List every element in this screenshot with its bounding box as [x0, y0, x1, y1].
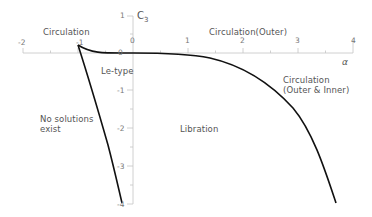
y-tick-label: -1 — [117, 86, 124, 95]
x-tick-label: 2 — [240, 36, 245, 45]
y-tick-label: 0 — [118, 48, 123, 57]
region-label-circulation: Circulation — [43, 27, 90, 37]
region-label-libration: Libration — [180, 124, 218, 134]
region-label-no-solutions: No solutionsexist — [40, 114, 94, 134]
y-axis-title: C3 — [137, 11, 149, 25]
x-tick-label: 0 — [130, 36, 135, 45]
region-label-circulation-outer-inner: Circulation(Outer & Inner) — [283, 75, 349, 95]
x-tick-label: 4 — [351, 36, 356, 45]
region-label-circulation-outer: Circulation(Outer) — [209, 27, 287, 37]
y-tick-label: -4 — [117, 200, 124, 209]
y-tick-label: 1 — [120, 11, 125, 20]
y-tick-label: -3 — [117, 162, 124, 171]
x-tick-label: -1 — [76, 38, 83, 47]
x-tick-label: 3 — [295, 36, 300, 45]
x-tick-label: 1 — [185, 36, 190, 45]
x-axis-title: α — [342, 57, 348, 67]
y-tick-label: -2 — [117, 124, 124, 133]
x-tick-label: -2 — [18, 38, 25, 47]
region-label-le-type: Le-type — [101, 66, 134, 76]
